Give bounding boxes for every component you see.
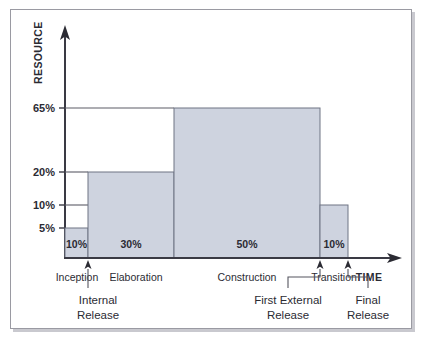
phase-label-inception: Inception [56,271,99,283]
bar-transition[interactable] [320,205,348,258]
callout-line2-first-external-release: Release [267,309,309,321]
callout-line1-internal-release: Internal [79,294,117,306]
callout-arrowhead-internal-release [85,260,92,269]
callout-line1-final-release: Final [356,294,381,306]
y-tick-65: 65% [33,102,174,114]
y-tick-label-5: 5% [39,222,55,234]
bar-duration-label-transition: 10% [323,238,345,250]
callout-line2-internal-release: Release [77,309,119,321]
callout-line2-final-release: Release [347,309,389,321]
bar-construction[interactable] [174,108,320,258]
y-axis-title: RESOURCE [32,21,44,84]
bar-duration-label-inception: 10% [66,238,88,250]
callout-final-release: Final Release [345,260,390,321]
callout-arrowhead-first-external-release [317,260,324,269]
y-tick-5: 5% [39,222,65,234]
bar-duration-label-construction: 50% [236,238,258,250]
rup-phase-resource-chart: RESOURCE 65% 20% 10% 5% 10% [0,0,425,345]
phase-label-elaboration: Elaboration [109,271,162,283]
callout-first-external-release: First External Release [254,260,323,321]
y-tick-20: 20% [33,166,88,178]
callout-internal-release: Internal Release [77,260,119,321]
y-tick-label-65: 65% [33,102,55,114]
y-tick-label-10: 10% [33,199,55,211]
bar-duration-label-elaboration: 30% [120,238,142,250]
phase-label-construction: Construction [218,271,277,283]
y-tick-label-20: 20% [33,166,55,178]
callout-arrowhead-final-release [345,260,352,269]
figure-container: RESOURCE 65% 20% 10% 5% 10% [0,0,425,345]
callout-line1-first-external-release: First External [254,294,322,306]
y-tick-10: 10% [33,199,88,211]
y-axis [60,25,70,258]
